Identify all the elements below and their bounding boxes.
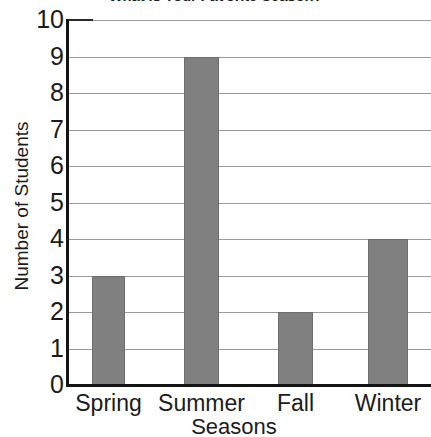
bar [278,312,313,385]
bars-group [69,20,431,385]
y-axis-tick-label: 3 [30,263,64,288]
bar [92,276,125,386]
y-axis-tick-label: 4 [30,226,64,251]
y-axis-tick-label: 10 [30,7,64,32]
plot-area [69,20,431,385]
y-axis-tick-label: 6 [30,153,64,178]
bar-chart-figure: What is Your Favorite Season? Number of … [0,0,431,437]
y-axis-tick-label: 2 [30,299,64,324]
y-axis-tick-label: 9 [30,44,64,69]
x-axis-spine [66,384,431,387]
y-axis-tick-label: 1 [30,336,64,361]
y-axis-tick-label: 7 [30,117,64,142]
x-axis-title: Seasons [69,414,399,437]
bar [368,239,408,385]
y-axis-tick-label: 8 [30,80,64,105]
y-axis-tick-labels: 109876543210 [30,0,64,437]
x-axis-tick-label: Winter [328,389,431,417]
chart-title: What is Your Favorite Season? [0,0,431,4]
y-axis-spine [66,19,69,387]
bar [184,57,219,386]
y-axis-tick-label: 5 [30,190,64,215]
y-axis-top-tick [69,19,93,21]
